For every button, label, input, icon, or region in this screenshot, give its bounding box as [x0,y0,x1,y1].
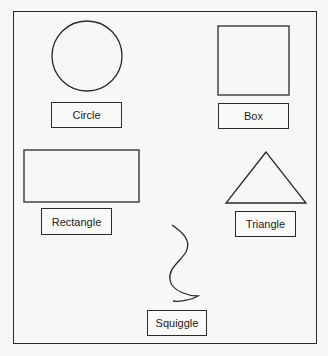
rectangle-label: Rectangle [41,208,112,235]
squiggle-label: Squiggle [147,310,207,336]
triangle-shape[interactable] [226,152,306,203]
box-label: Box [218,103,289,129]
shapes-canvas [0,0,328,356]
rectangle-shape[interactable] [24,150,139,202]
triangle-label: Triangle [235,211,296,237]
squiggle-shape[interactable] [170,225,198,301]
box-shape[interactable] [218,26,289,95]
circle-shape[interactable] [52,21,122,91]
circle-label: Circle [51,102,122,128]
